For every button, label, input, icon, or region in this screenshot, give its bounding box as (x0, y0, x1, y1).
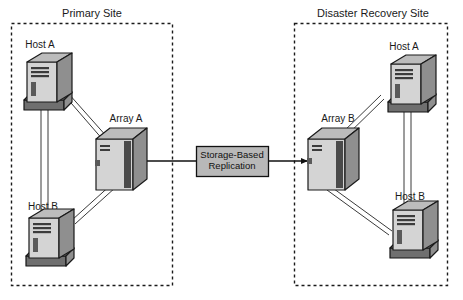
site-label-dr: Disaster Recovery Site (317, 7, 429, 19)
replication-process-box[interactable]: Storage-Based Replication (197, 147, 269, 177)
node-label-dr-host-a: Host A (389, 41, 419, 52)
link-dr-array-to-hostb (327, 186, 392, 235)
link-dr-hosta-to-hostb (404, 112, 411, 203)
node-dr-host-a[interactable]: Host A (388, 41, 436, 112)
node-primary-array-a[interactable]: Array A (95, 113, 147, 190)
site-label-primary: Primary Site (62, 7, 122, 19)
node-primary-host-a[interactable]: Host A (24, 39, 72, 110)
replication-topology-diagram: Primary Site Disaster Recovery Site (0, 0, 463, 300)
node-label-primary-array-a: Array A (110, 113, 143, 124)
node-dr-host-b[interactable]: Host B (390, 191, 438, 258)
diagram-canvas: Primary Site Disaster Recovery Site (0, 0, 463, 300)
node-label-primary-host-a: Host A (25, 39, 55, 50)
replication-label-line2: Replication (209, 160, 256, 171)
link-primary-hosta-to-hostb (41, 110, 48, 213)
replication-label-line1: Storage-Based (200, 149, 263, 160)
node-label-dr-host-b: Host B (395, 191, 425, 202)
node-label-dr-array-b: Array B (321, 113, 355, 124)
node-primary-host-b[interactable]: Host B (26, 201, 74, 266)
